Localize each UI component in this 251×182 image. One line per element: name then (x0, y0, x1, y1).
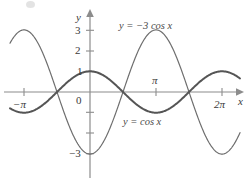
x-tick-label-2pi: 2π (214, 99, 225, 110)
x-tick-label-neg-pi: −π (13, 99, 26, 110)
y-tick-label-2: 2 (75, 45, 81, 56)
curve-annotation-neg-3-cos-x: y = −3 cos x (119, 21, 172, 32)
cosine-graph-figure: y x 0 3 2 1 −3 −π π 2π y = −3 cos x y = … (0, 0, 251, 182)
curve-annotation-cos-x: y = cos x (123, 117, 161, 128)
x-axis-label: x (238, 96, 243, 107)
y-tick-label-neg3: −3 (69, 148, 81, 159)
origin-label: 0 (76, 95, 82, 106)
x-tick-label-pi: π (152, 75, 158, 86)
y-axis-label: y (76, 12, 81, 23)
y-axis-arrowhead (86, 9, 94, 17)
y-tick-label-1: 1 (77, 66, 83, 77)
y-tick-label-3: 3 (75, 25, 81, 36)
